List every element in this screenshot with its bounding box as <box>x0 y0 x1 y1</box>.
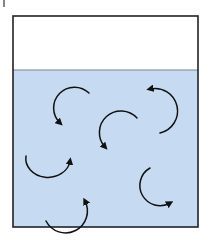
convection-diagram <box>0 0 211 250</box>
air-region <box>13 16 198 70</box>
